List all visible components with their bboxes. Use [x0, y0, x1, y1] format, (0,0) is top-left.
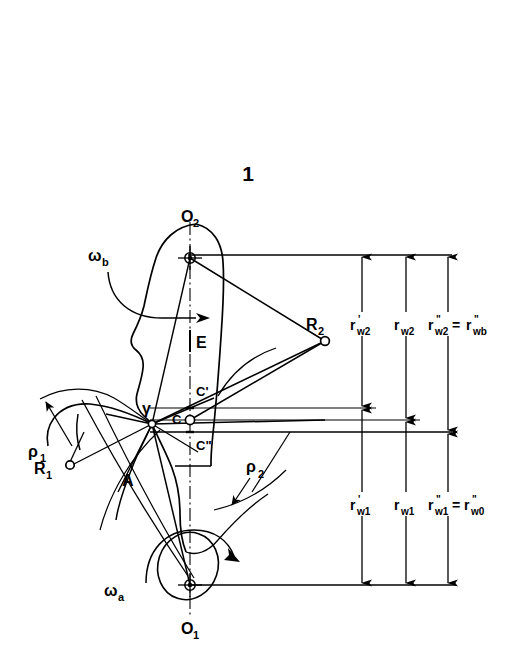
label-o1-subscript: 1 [193, 629, 199, 641]
lower-hub-ellipse [149, 524, 227, 607]
dim-top-3-prime2: " [474, 314, 479, 325]
dim-top-3-prime: " [436, 314, 441, 325]
rho2-generating-arc [214, 470, 286, 510]
label-rho2: ρ 2 [246, 458, 264, 480]
label-r2-base: R [306, 316, 318, 333]
dim-top-3-base2: r [466, 317, 472, 333]
label-r2-subscript: 2 [318, 325, 324, 337]
label-omega-b-subscript: b [102, 256, 109, 268]
dim-top-3-base: r [428, 317, 434, 333]
dim-bottom-3-base2: r [464, 497, 470, 513]
dim-bottom-3-prime2: " [472, 494, 477, 505]
dim-bottom-1-subscript: w1 [356, 506, 371, 517]
text-labels: 1 O 2 O 1 ω b ω a R 2 R 1 [28, 162, 487, 641]
rho1-generating-arc [40, 389, 152, 424]
label-omega-b-base: ω [88, 247, 102, 264]
label-e: E [196, 334, 207, 351]
label-rho1-subscript: 1 [40, 452, 46, 464]
label-omega-a-subscript: a [118, 591, 125, 603]
dim-bottom-3-base: r [428, 497, 434, 513]
dim-top-2-base: r [394, 317, 400, 333]
label-omega-a-base: ω [104, 582, 118, 599]
c-node-marker [185, 415, 194, 424]
o2-to-r2-line [190, 258, 325, 341]
r1-node-marker [66, 461, 74, 469]
label-r1-subscript: 1 [46, 469, 52, 481]
technical-drawing: 1 O 2 O 1 ω b ω a R 2 R 1 [0, 0, 530, 665]
r2-node-marker [321, 337, 330, 346]
dim-top-3-subscript2: wb [472, 326, 487, 337]
dim-top-3-equals: = [452, 317, 460, 333]
dim-top-1-base: r [350, 317, 356, 333]
dim-bottom-1-prime: ' [358, 494, 360, 505]
dim-bottom-2-subscript: w1 [400, 506, 415, 517]
gamma-node-marker [148, 420, 155, 427]
label-c-double-prime: C" [196, 438, 212, 453]
dim-top-1-subscript: w2 [356, 326, 371, 337]
figure-number: 1 [242, 162, 254, 185]
label-c-prime: C' [196, 384, 208, 399]
label-o1: O 1 [181, 620, 199, 641]
o1-center-marker [178, 573, 202, 597]
drawing-geometry [40, 222, 503, 618]
dim-bottom-3-subscript2: w0 [470, 506, 485, 517]
omega-b-rotation-arc [108, 272, 196, 318]
lower-body-left-wing-lower [47, 418, 54, 446]
dim-top-2-subscript: w2 [400, 326, 415, 337]
dim-top-1-prime: ' [358, 314, 360, 325]
dim-bottom-1-base: r [350, 497, 356, 513]
label-r2: R 2 [306, 316, 324, 337]
label-rho1-base: ρ [28, 443, 38, 460]
label-o1-base: O [181, 620, 193, 637]
omega-b-arrowhead [196, 313, 210, 323]
dim-top-3-subscript: w2 [434, 326, 449, 337]
r1-to-gamma-line [70, 424, 152, 466]
gamma-to-o2-line [152, 258, 190, 424]
label-o2-subscript: 2 [193, 217, 199, 229]
label-rho2-subscript: 2 [258, 468, 264, 480]
label-a: A [122, 472, 134, 489]
dim-bottom-3-equals: = [452, 497, 460, 513]
label-omega-b: ω b [88, 247, 109, 268]
label-omega-a: ω a [104, 582, 125, 603]
label-o2-base: O [181, 208, 193, 225]
dim-bottom-3-subscript: w1 [434, 506, 449, 517]
label-rho2-base: ρ [246, 458, 256, 475]
dim-bottom-2-base: r [394, 497, 400, 513]
dim-bottom-3-prime: " [436, 494, 441, 505]
o2-center-marker [178, 246, 202, 270]
label-c: C [172, 412, 182, 427]
figure-canvas: 1 O 2 O 1 ω b ω a R 2 R 1 [0, 0, 530, 665]
label-gamma: γ [142, 400, 151, 417]
